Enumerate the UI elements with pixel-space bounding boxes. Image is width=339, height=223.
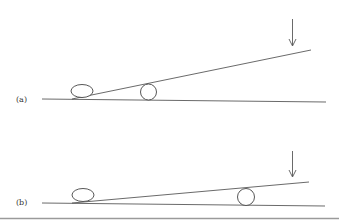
roller-b [238,189,255,206]
panel-b-label: (b) [16,198,27,207]
force-arrow-icon [289,19,296,46]
ground-line-b [42,203,325,206]
panel-a-label: (a) [16,95,27,104]
inclined-plank-a [72,50,311,99]
force-arrow-icon [289,151,296,177]
ground-line-a [42,99,326,102]
ellipse-support-b [72,189,94,202]
inclined-plank-b [72,182,309,203]
diagram-canvas: (a) (b) [0,0,339,223]
panel-b: (b) [16,151,325,207]
ellipse-support-a [71,85,93,98]
panel-a: (a) [16,19,326,104]
roller-a [141,84,157,100]
